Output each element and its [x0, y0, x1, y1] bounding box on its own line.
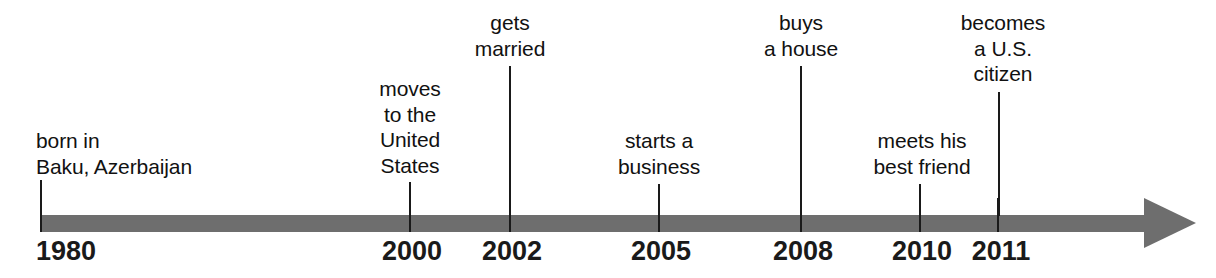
event-label-2011-line2: a U.S.	[961, 36, 1046, 62]
event-label-2011: becomes a U.S. citizen	[961, 10, 1046, 87]
year-label-2005: 2005	[631, 236, 691, 267]
event-label-1980-line1: born in	[36, 128, 192, 154]
year-label-2000: 2000	[382, 236, 442, 267]
event-label-2000-line1: moves	[379, 76, 440, 102]
event-stem-2002	[509, 66, 511, 216]
year-label-1980: 1980	[36, 236, 96, 267]
event-label-2000: moves to the United States	[379, 76, 440, 178]
event-label-2008: buys a house	[764, 10, 838, 61]
year-label-2002: 2002	[482, 236, 542, 267]
event-stem-2008	[800, 66, 802, 216]
year-tick-2011	[997, 198, 999, 232]
event-label-2002: gets married	[475, 10, 545, 61]
event-label-2000-line3: United	[379, 127, 440, 153]
event-label-2002-line2: married	[475, 36, 545, 62]
event-label-2002-line1: gets	[475, 10, 545, 36]
year-label-2010: 2010	[892, 236, 952, 267]
year-tick-2010	[919, 198, 921, 232]
event-label-2005: starts a business	[618, 128, 700, 179]
event-label-1980-line2: Baku, Azerbaijan	[36, 154, 192, 180]
event-label-2008-line1: buys	[764, 10, 838, 36]
timeline-arrowhead-icon	[1144, 198, 1196, 248]
timeline-figure: born in Baku, Azerbaijan 1980 moves to t…	[0, 0, 1216, 278]
event-label-2010-line1: meets his	[874, 128, 971, 154]
event-label-2010: meets his best friend	[874, 128, 971, 179]
event-label-2000-line2: to the	[379, 102, 440, 128]
year-label-2008: 2008	[773, 236, 833, 267]
event-label-2011-line3: citizen	[961, 61, 1046, 87]
year-tick-2005	[658, 198, 660, 232]
year-tick-2000	[409, 198, 411, 232]
event-label-2008-line2: a house	[764, 36, 838, 62]
timeline-axis-bar	[40, 215, 1150, 232]
year-tick-1980	[40, 198, 42, 232]
year-label-2011: 2011	[972, 236, 1031, 267]
event-label-1980: born in Baku, Azerbaijan	[36, 128, 192, 179]
event-label-2010-line2: best friend	[874, 154, 971, 180]
year-tick-2002	[509, 198, 511, 232]
event-label-2005-line1: starts a	[618, 128, 700, 154]
event-label-2005-line2: business	[618, 154, 700, 180]
year-tick-2008	[800, 198, 802, 232]
event-label-2011-line1: becomes	[961, 10, 1046, 36]
event-label-2000-line4: States	[379, 153, 440, 179]
